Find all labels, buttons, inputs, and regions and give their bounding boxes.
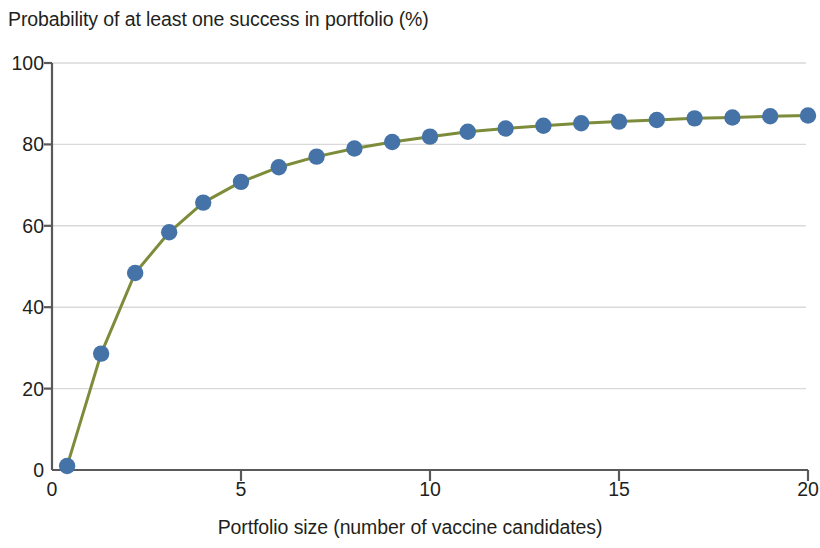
data-point-marker: [611, 113, 627, 129]
data-point-marker: [686, 110, 702, 126]
data-point-marker: [308, 148, 324, 164]
data-point-marker: [422, 128, 438, 144]
data-point-marker: [233, 174, 249, 190]
y-tick-label-100: 100: [0, 52, 44, 75]
plot-area: [0, 0, 820, 548]
y-tick-label-60: 60: [0, 214, 44, 237]
x-tick-label-15: 15: [589, 478, 649, 501]
data-point-marker: [497, 120, 513, 136]
data-point-marker: [195, 194, 211, 210]
data-point-marker: [762, 108, 778, 124]
plot-svg: [0, 0, 820, 548]
data-point-marker: [93, 345, 109, 361]
data-point-marker: [535, 117, 551, 133]
data-point-marker: [271, 159, 287, 175]
x-tick-label-0: 0: [22, 478, 82, 501]
data-point-marker: [346, 140, 362, 156]
x-axis-label: Portfolio size (number of vaccine candid…: [0, 516, 820, 539]
x-tick-label-20: 20: [778, 478, 820, 501]
data-point-marker: [127, 265, 143, 281]
data-point-marker: [384, 134, 400, 150]
y-tick-label-40: 40: [0, 296, 44, 319]
data-point-marker: [161, 224, 177, 240]
y-tick-label-20: 20: [0, 377, 44, 400]
data-series-line: [67, 116, 808, 466]
data-point-marker: [724, 109, 740, 125]
x-tick-label-5: 5: [211, 478, 271, 501]
chart-figure: Probability of at least one success in p…: [0, 0, 820, 548]
data-point-marker: [573, 115, 589, 131]
x-tick-label-10: 10: [400, 478, 460, 501]
y-tick-label-80: 80: [0, 133, 44, 156]
data-point-marker: [800, 107, 816, 123]
data-point-marker: [460, 124, 476, 140]
data-point-marker: [59, 458, 75, 474]
data-point-marker: [649, 112, 665, 128]
